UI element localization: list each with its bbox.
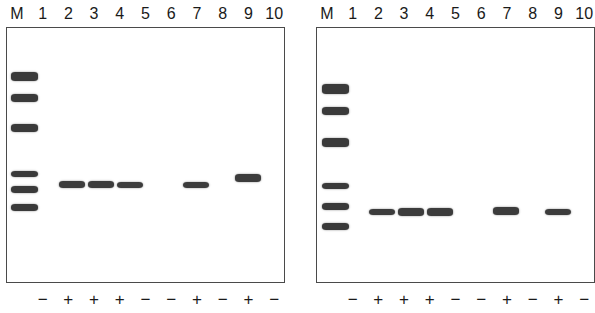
sample-band-lane-7 bbox=[493, 207, 519, 215]
lane-label-M: M bbox=[314, 5, 340, 23]
sample-band-lane-2 bbox=[59, 181, 85, 188]
gel-box-right bbox=[316, 27, 595, 283]
sample-band-lane-3 bbox=[398, 208, 424, 216]
lane-label-M: M bbox=[4, 5, 30, 23]
lane-label-2: 2 bbox=[365, 5, 391, 23]
sign-lane-10: − bbox=[571, 290, 595, 310]
gel-panel-left: M 1 2 3 4 5 6 7 8 9 10 − + + + − − + − +… bbox=[0, 0, 292, 313]
sign-lane-9: + bbox=[546, 290, 572, 310]
gel-box-left bbox=[6, 27, 285, 283]
lane-label-row-right: M 1 2 3 4 5 6 7 8 9 10 bbox=[314, 4, 595, 24]
sign-lane-10: − bbox=[261, 290, 287, 310]
band-layer-left bbox=[7, 28, 284, 282]
sign-lane-7: + bbox=[184, 290, 210, 310]
marker-band bbox=[11, 171, 38, 177]
sign-lane-6: − bbox=[468, 290, 494, 310]
marker-band bbox=[11, 124, 38, 132]
marker-band bbox=[322, 203, 349, 210]
sign-lane-2: + bbox=[365, 290, 391, 310]
marker-band bbox=[11, 186, 38, 193]
sign-lane-1: − bbox=[30, 290, 56, 310]
sample-band-lane-4 bbox=[117, 182, 143, 188]
marker-band bbox=[11, 72, 38, 81]
lane-label-4: 4 bbox=[107, 5, 133, 23]
marker-band bbox=[322, 107, 349, 115]
sample-band-lane-9 bbox=[545, 209, 571, 215]
lane-label-5: 5 bbox=[133, 5, 159, 23]
sign-row-right: − + + + − − + − + − bbox=[314, 288, 595, 312]
lane-label-8: 8 bbox=[520, 5, 546, 23]
sign-lane-7: + bbox=[494, 290, 520, 310]
sign-lane-3: + bbox=[81, 290, 107, 310]
lane-label-1: 1 bbox=[30, 5, 56, 23]
marker-band bbox=[11, 204, 38, 211]
lane-label-1: 1 bbox=[340, 5, 366, 23]
gel-panel-right: M 1 2 3 4 5 6 7 8 9 10 − + + + − − + − +… bbox=[303, 0, 595, 313]
marker-band bbox=[322, 84, 349, 94]
sign-lane-6: − bbox=[158, 290, 184, 310]
lane-label-10: 10 bbox=[571, 5, 595, 23]
sign-lane-4: + bbox=[417, 290, 443, 310]
sign-lane-4: + bbox=[107, 290, 133, 310]
sign-lane-3: + bbox=[391, 290, 417, 310]
lane-label-10: 10 bbox=[261, 5, 287, 23]
marker-band bbox=[11, 94, 38, 102]
sign-lane-9: + bbox=[236, 290, 262, 310]
sample-band-lane-7 bbox=[183, 182, 209, 188]
sign-lane-8: − bbox=[210, 290, 236, 310]
sample-band-lane-2 bbox=[369, 209, 395, 215]
sign-lane-5: − bbox=[133, 290, 159, 310]
lane-label-8: 8 bbox=[210, 5, 236, 23]
sample-band-lane-4 bbox=[427, 208, 453, 216]
sample-band-lane-9 bbox=[235, 174, 261, 182]
sign-lane-2: + bbox=[55, 290, 81, 310]
lane-label-3: 3 bbox=[81, 5, 107, 23]
lane-label-5: 5 bbox=[443, 5, 469, 23]
lane-label-6: 6 bbox=[158, 5, 184, 23]
lane-label-7: 7 bbox=[494, 5, 520, 23]
gel-figure: M 1 2 3 4 5 6 7 8 9 10 − + + + − − + − +… bbox=[0, 0, 595, 313]
lane-label-row-left: M 1 2 3 4 5 6 7 8 9 10 bbox=[4, 4, 287, 24]
sign-row-left: − + + + − − + − + − bbox=[4, 288, 287, 312]
lane-label-6: 6 bbox=[468, 5, 494, 23]
lane-label-4: 4 bbox=[417, 5, 443, 23]
marker-band bbox=[322, 223, 349, 230]
lane-label-3: 3 bbox=[391, 5, 417, 23]
band-layer-right bbox=[317, 28, 594, 282]
sample-band-lane-3 bbox=[88, 181, 114, 188]
lane-label-2: 2 bbox=[55, 5, 81, 23]
marker-band bbox=[322, 138, 349, 147]
lane-label-9: 9 bbox=[236, 5, 262, 23]
sign-lane-1: − bbox=[340, 290, 366, 310]
marker-band bbox=[322, 183, 349, 189]
lane-label-9: 9 bbox=[546, 5, 572, 23]
sign-lane-5: − bbox=[443, 290, 469, 310]
lane-label-7: 7 bbox=[184, 5, 210, 23]
sign-lane-8: − bbox=[520, 290, 546, 310]
